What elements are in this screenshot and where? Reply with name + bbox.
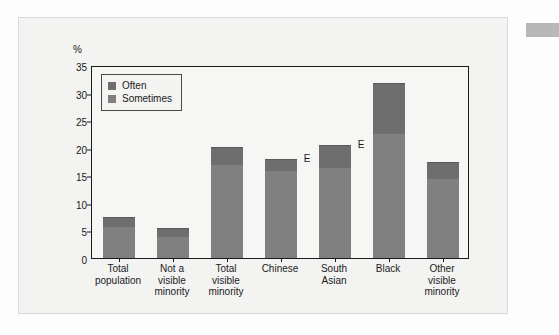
stacked-bar	[373, 83, 405, 258]
stacked-bar	[157, 228, 189, 258]
y-axis-tick-label: 25	[76, 117, 87, 128]
x-axis-label-line: minority	[191, 286, 261, 298]
bar-segment-often	[319, 145, 351, 168]
x-axis-label-line: visible	[191, 275, 261, 287]
legend-label-often: Often	[122, 80, 146, 91]
x-axis-label-line: minority	[407, 286, 477, 298]
x-axis-tick-mark	[173, 258, 174, 262]
stacked-bar	[319, 145, 351, 258]
bar-segment-often	[427, 162, 459, 179]
bar-segment-often	[103, 217, 135, 227]
x-axis-tick-mark	[119, 258, 120, 262]
stacked-bar	[211, 147, 243, 258]
stacked-bar	[103, 217, 135, 258]
x-axis-tick-mark	[281, 258, 282, 262]
legend-swatch-sometimes-icon	[108, 95, 116, 103]
x-axis-tick-mark	[389, 258, 390, 262]
x-axis-label-line: Asian	[299, 275, 369, 287]
legend-label-sometimes: Sometimes	[122, 93, 172, 104]
x-axis-label-line: visible	[407, 275, 477, 287]
y-axis-tick-label: 15	[76, 172, 87, 183]
legend-item-sometimes: Sometimes	[108, 92, 172, 105]
stacked-bar	[427, 162, 459, 258]
bar-slot	[254, 67, 308, 258]
stacked-bar	[265, 159, 297, 258]
bar-slot	[416, 67, 470, 258]
x-axis-tick-mark	[227, 258, 228, 262]
bar-segment-sometimes	[103, 227, 135, 258]
bar-slot	[362, 67, 416, 258]
bar-segment-sometimes	[157, 237, 189, 258]
scanned-page-canvas: % 05101520253035 EE TotalpopulationNot a…	[0, 0, 559, 335]
bar-segment-sometimes	[427, 179, 459, 258]
bar-segment-often	[373, 83, 405, 134]
figure-panel: % 05101520253035 EE TotalpopulationNot a…	[18, 17, 508, 314]
bar-segment-often	[211, 147, 243, 165]
y-axis-tick-label: 20	[76, 144, 87, 155]
y-axis-tick-label: 30	[76, 89, 87, 100]
bar-segment-sometimes	[373, 134, 405, 258]
bar-slot	[308, 67, 362, 258]
stacked-bar-chart: % 05101520253035 EE TotalpopulationNot a…	[19, 18, 509, 315]
legend-swatch-often-icon	[108, 82, 116, 90]
data-quality-flag: E	[358, 139, 365, 150]
bar-slot	[200, 67, 254, 258]
bar-segment-sometimes	[265, 171, 297, 258]
y-axis-tick-label: 10	[76, 199, 87, 210]
x-axis-tick-mark	[443, 258, 444, 262]
bar-segment-often	[157, 228, 189, 237]
data-quality-flag: E	[304, 153, 311, 164]
x-axis-tick-mark	[335, 258, 336, 262]
y-axis-unit-label: %	[73, 44, 82, 55]
legend-item-often: Often	[108, 79, 172, 92]
bar-segment-often	[265, 159, 297, 171]
bar-segment-sometimes	[319, 168, 351, 258]
bar-segment-sometimes	[211, 165, 243, 258]
chart-legend: Often Sometimes	[101, 74, 182, 111]
page-edge-marker	[526, 23, 559, 37]
x-axis-label-line: Other	[407, 263, 477, 275]
x-axis-category-label: Othervisibleminority	[407, 263, 477, 298]
y-axis-tick-label: 35	[76, 62, 87, 73]
